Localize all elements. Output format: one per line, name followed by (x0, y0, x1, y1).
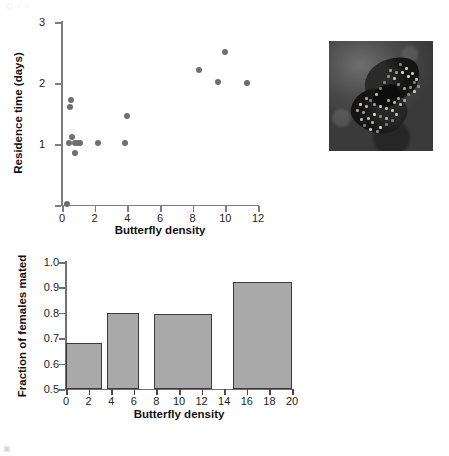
scatter-y-tick-label: 2 (0, 77, 55, 89)
wing-spot (393, 101, 396, 104)
scatter-data-point (244, 80, 250, 86)
wing-spot (409, 86, 412, 89)
bar-x-tick-label: 12 (195, 395, 207, 407)
bar-y-tick-label: 0.5 (33, 383, 59, 395)
scatter-x-axis-title: Butterfly density (115, 224, 206, 236)
wing-spot (407, 93, 410, 96)
wing-spot (379, 115, 382, 118)
bar-chart-panel: 0.50.60.70.80.91.002468101214161820 Butt… (0, 248, 320, 456)
wing-spot (405, 67, 408, 70)
wing-spot (359, 103, 362, 106)
wing-spot (395, 71, 398, 74)
scatter-y-tick-label: 3 (0, 16, 55, 28)
scatter-x-tick-label: 8 (190, 212, 196, 224)
bar (66, 343, 102, 389)
bar-x-tick-label: 14 (218, 395, 230, 407)
scatter-plot-panel: 123024681012 Butterfly density Residence… (0, 0, 310, 245)
wing-spot (397, 83, 400, 86)
scatter-data-point (95, 140, 101, 146)
wing-spot (363, 124, 366, 127)
scatter-data-point (196, 67, 202, 73)
bar-y-tick (59, 389, 65, 391)
figure-page: © ▫ ▫ ▣ 123024681012 Butterfly density R… (0, 0, 449, 456)
scatter-y-tick (55, 205, 61, 207)
scatter-y-tick-label: 1 (0, 138, 55, 150)
bar-x-tick-label: 10 (173, 395, 185, 407)
wing-spot (417, 85, 420, 88)
wing-spot (373, 113, 376, 116)
bar-y-tick-label: 1.0 (33, 256, 59, 268)
bar-x-tick-label: 4 (108, 395, 114, 407)
scatter-y-tick (55, 83, 61, 85)
wing-spot (411, 72, 414, 75)
wing-spot (397, 97, 400, 100)
bar-y-tick-label: 0.8 (33, 307, 59, 319)
wing-spot (385, 117, 388, 120)
scatter-x-tick-label: 4 (124, 212, 130, 224)
bar-y-tick-label: 0.6 (33, 358, 59, 370)
wing-spot (373, 103, 376, 106)
bar-y-tick-label: 0.9 (33, 281, 59, 293)
wing-spot (395, 113, 398, 116)
wing-spot (369, 99, 372, 102)
bar (233, 282, 292, 389)
wing-spot (379, 87, 382, 90)
bar (107, 313, 140, 389)
bar-x-tick-label: 8 (153, 395, 159, 407)
bar-x-axis-title: Butterfly density (134, 408, 225, 420)
wing-spot (399, 63, 402, 66)
wing-spot (385, 123, 388, 126)
bar-plot-area (66, 262, 292, 389)
scatter-plot-area (62, 22, 258, 205)
scatter-x-tick-label: 10 (219, 212, 231, 224)
wing-spot (375, 93, 378, 96)
scatter-x-tick-label: 12 (252, 212, 264, 224)
scatter-data-point (215, 79, 221, 85)
wing-spot (383, 81, 386, 84)
scatter-y-axis-title: Residence time (days) (12, 52, 24, 173)
scatter-y-tick (55, 22, 61, 24)
bar-y-tick-label: 0.7 (33, 332, 59, 344)
wing-spot (371, 121, 374, 124)
scatter-data-point (77, 140, 83, 146)
butterfly-photo (329, 41, 433, 151)
wing-spot (362, 111, 365, 114)
scatter-data-point (222, 49, 228, 55)
scatter-data-point (124, 113, 130, 119)
wing-spot (413, 81, 416, 84)
wing-spot (385, 107, 388, 110)
wing-spot (360, 118, 363, 121)
bar-x-tick-label: 18 (263, 395, 275, 407)
wing-spot (365, 105, 368, 108)
bar-x-tick-label: 6 (131, 395, 137, 407)
wing-spot (389, 69, 392, 72)
wing-spot (403, 99, 406, 102)
wing-spot (387, 75, 390, 78)
scatter-data-point (67, 104, 73, 110)
scatter-data-point (64, 201, 70, 207)
wing-spot (367, 117, 370, 120)
bar-y-tick (59, 364, 65, 366)
wing-spot (413, 90, 416, 93)
wing-spot (407, 75, 410, 78)
wing-spot (379, 105, 382, 108)
bar-y-tick (59, 287, 65, 289)
scatter-data-point (122, 140, 128, 146)
wing-spot (399, 103, 402, 106)
scatter-x-tick-label: 0 (59, 212, 65, 224)
scatter-y-tick (55, 144, 61, 146)
scatter-data-point (68, 97, 74, 103)
bar-x-tick-label: 0 (63, 395, 69, 407)
wing-spot (379, 126, 382, 129)
wing-spot (387, 99, 390, 102)
bar-x-tick-label: 2 (86, 395, 92, 407)
wing-spot (369, 128, 372, 131)
wing-spot (391, 109, 394, 112)
wing-spot (376, 130, 379, 133)
wing-spot (356, 109, 359, 112)
bar-y-axis-title: Fraction of females mated (16, 255, 28, 398)
scatter-x-tick-label: 2 (92, 212, 98, 224)
bar (154, 314, 212, 389)
bar-x-tick-label: 20 (286, 395, 298, 407)
wing-spot (391, 119, 394, 122)
